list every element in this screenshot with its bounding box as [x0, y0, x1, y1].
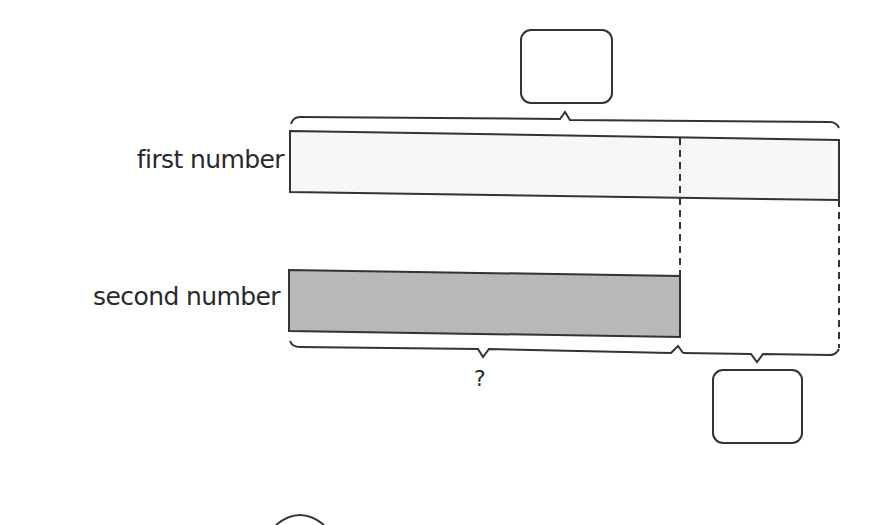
second-number-bar [289, 270, 680, 337]
bottom-brace-question [290, 341, 683, 357]
unknown-question-mark: ? [474, 366, 486, 391]
partial-circle [276, 515, 324, 525]
bottom-answer-box[interactable] [713, 370, 802, 443]
second-number-label: second number [93, 282, 280, 311]
top-answer-box[interactable] [521, 30, 612, 103]
bottom-brace-difference [683, 349, 839, 362]
first-number-bar [290, 131, 839, 200]
bar-model-diagram [0, 0, 872, 525]
top-brace [291, 112, 839, 128]
first-number-label: first number [137, 145, 284, 174]
